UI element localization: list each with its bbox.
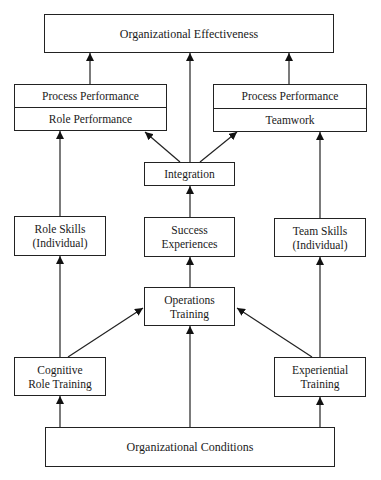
node-process-performance-right: Process Performance — [214, 85, 366, 108]
node-teamwork: Teamwork — [214, 108, 366, 132]
node-role-performance: Role Performance — [15, 107, 166, 130]
node-operations-training: Operations Training — [144, 287, 235, 326]
node-label-line2: Experiences — [161, 237, 217, 251]
arrow-experiential-to-operations — [237, 308, 312, 357]
arrow-cognitive-to-operations — [68, 308, 143, 357]
node-label-line2: (Individual) — [33, 236, 88, 250]
node-process-performance-left: Process Performance — [15, 85, 166, 107]
node-label-line2: Role Training — [28, 377, 92, 391]
node-label: Organizational Conditions — [127, 440, 254, 454]
node-label: Integration — [164, 167, 214, 181]
node-integration: Integration — [144, 162, 235, 186]
node-role-skills: Role Skills (Individual) — [14, 216, 106, 256]
node-right-performance: Process Performance Teamwork — [213, 84, 367, 132]
arrow-integration-to-left-perf — [145, 132, 180, 162]
node-success-experiences: Success Experiences — [144, 217, 235, 257]
node-experiential-training: Experiential Training — [274, 357, 366, 397]
node-left-performance: Process Performance Role Performance — [14, 84, 167, 131]
node-cognitive-role-training: Cognitive Role Training — [14, 357, 106, 396]
node-label-line1: Cognitive — [37, 363, 82, 377]
node-label-line1: Team Skills — [293, 224, 347, 238]
arrow-integration-to-right-perf — [200, 132, 237, 162]
node-label-line2: (Individual) — [293, 238, 348, 252]
node-label-line1: Role Skills — [35, 222, 86, 236]
node-label: Organizational Effectiveness — [120, 27, 259, 41]
node-team-skills: Team Skills (Individual) — [274, 218, 366, 257]
node-organizational-conditions: Organizational Conditions — [45, 427, 335, 467]
node-label-line1: Success — [171, 223, 207, 237]
node-label-line2: Training — [300, 377, 339, 391]
node-organizational-effectiveness: Organizational Effectiveness — [44, 14, 334, 53]
node-label-line2: Training — [170, 307, 209, 321]
node-label-line1: Operations — [164, 293, 214, 307]
node-label-line1: Experiential — [292, 363, 348, 377]
